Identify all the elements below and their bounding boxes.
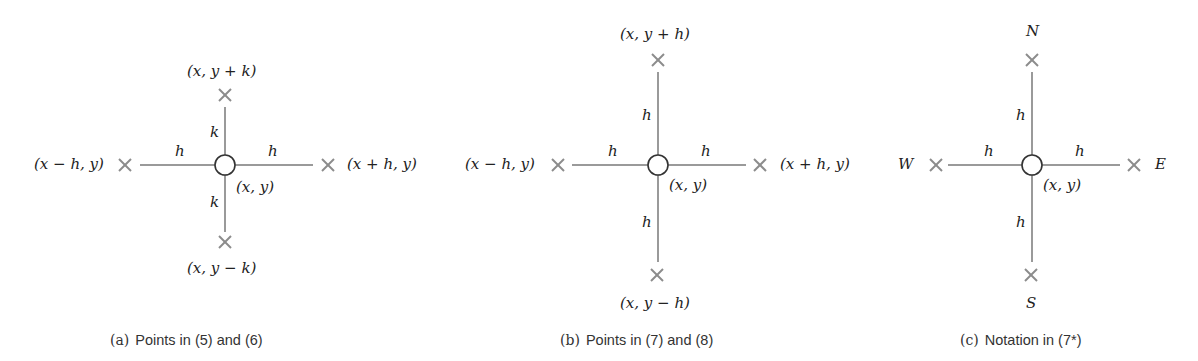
caption-text-c: Notation in (7*) [985,332,1082,348]
arm-label-south-c: h [1016,215,1026,230]
arm-label-east-c: h [1075,144,1085,159]
caption-c: (c)Notation in (7*) [960,332,1081,348]
caption-tag-c: (c) [960,332,979,348]
east-label-c: E [1155,157,1166,172]
south-label-c: S [1026,296,1036,311]
north-label-c: N [1026,24,1039,39]
center-label-c: (x, y) [1043,178,1081,193]
west-label-c: W [898,157,913,172]
arm-label-north-c: h [1016,108,1026,123]
center-point-circle-icon [1022,155,1042,175]
arm-label-west-c: h [984,144,994,159]
stencil-c-graphic [0,0,1198,361]
